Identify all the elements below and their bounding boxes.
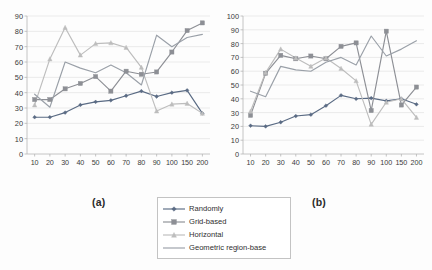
svg-text:150: 150 — [181, 158, 193, 167]
svg-text:100: 100 — [380, 158, 392, 167]
svg-text:0: 0 — [235, 150, 239, 159]
svg-text:70: 70 — [122, 158, 130, 167]
svg-text:20: 20 — [231, 122, 239, 131]
svg-text:30: 30 — [61, 158, 69, 167]
svg-text:90: 90 — [15, 12, 23, 21]
legend-item-horizontal[interactable]: Horizontal — [162, 228, 285, 241]
svg-text:50: 50 — [92, 158, 100, 167]
svg-text:70: 70 — [15, 43, 23, 52]
chart-panel-a: 0102030405060708090102030405060708090100… — [2, 6, 216, 188]
chart-panel-b: 0102030405060708090100102030405060708090… — [218, 6, 430, 188]
svg-text:30: 30 — [231, 109, 239, 118]
line-chart-b: 0102030405060708090100102030405060708090… — [218, 6, 430, 188]
svg-text:60: 60 — [107, 158, 115, 167]
svg-text:60: 60 — [322, 158, 330, 167]
svg-text:40: 40 — [76, 158, 84, 167]
svg-text:80: 80 — [352, 158, 360, 167]
svg-text:100: 100 — [227, 12, 239, 21]
svg-text:40: 40 — [15, 89, 23, 98]
svg-text:30: 30 — [15, 104, 23, 113]
svg-text:90: 90 — [153, 158, 161, 167]
svg-text:10: 10 — [31, 158, 39, 167]
svg-text:30: 30 — [277, 158, 285, 167]
legend-marker-diamond-icon — [162, 203, 186, 215]
svg-text:80: 80 — [231, 40, 239, 49]
svg-text:10: 10 — [231, 136, 239, 145]
legend-label-randomly: Randomly — [189, 204, 223, 213]
svg-text:20: 20 — [262, 158, 270, 167]
svg-text:40: 40 — [292, 158, 300, 167]
svg-text:20: 20 — [15, 119, 23, 128]
svg-text:40: 40 — [231, 95, 239, 104]
legend-marker-line-icon — [162, 242, 186, 254]
legend-item-grid-based[interactable]: Grid-based — [162, 215, 285, 228]
svg-text:80: 80 — [137, 158, 145, 167]
svg-text:90: 90 — [367, 158, 375, 167]
svg-text:90: 90 — [231, 26, 239, 35]
svg-text:100: 100 — [166, 158, 178, 167]
legend-item-randomly[interactable]: Randomly — [162, 202, 285, 215]
legend-marker-triangle-icon — [162, 229, 186, 241]
svg-text:50: 50 — [231, 81, 239, 90]
legend-label-grid-based: Grid-based — [189, 217, 227, 226]
legend-item-geometric-region-base[interactable]: Geometric region-base — [162, 241, 285, 254]
svg-text:200: 200 — [196, 158, 208, 167]
svg-text:200: 200 — [410, 158, 422, 167]
svg-text:70: 70 — [337, 158, 345, 167]
legend-marker-square-icon — [162, 216, 186, 228]
svg-text:150: 150 — [395, 158, 407, 167]
svg-text:60: 60 — [231, 67, 239, 76]
panel-a-caption: (a) — [92, 196, 105, 208]
svg-text:10: 10 — [247, 158, 255, 167]
line-chart-a: 0102030405060708090102030405060708090100… — [2, 6, 216, 188]
figure-container: 0102030405060708090102030405060708090100… — [0, 0, 432, 270]
panel-b-caption: (b) — [312, 196, 326, 208]
svg-text:20: 20 — [46, 158, 54, 167]
svg-text:0: 0 — [19, 150, 23, 159]
svg-text:70: 70 — [231, 53, 239, 62]
svg-text:50: 50 — [15, 73, 23, 82]
svg-text:10: 10 — [15, 135, 23, 144]
svg-text:50: 50 — [307, 158, 315, 167]
chart-legend: Randomly Grid-based Horizontal Geometric… — [157, 197, 291, 259]
legend-label-geometric-region-base: Geometric region-base — [189, 243, 266, 252]
svg-text:60: 60 — [15, 58, 23, 67]
svg-text:80: 80 — [15, 27, 23, 36]
legend-label-horizontal: Horizontal — [189, 230, 223, 239]
